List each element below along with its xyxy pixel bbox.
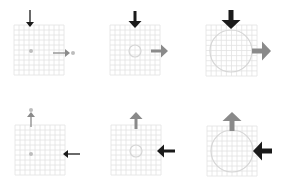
- diagram-canvas: [0, 0, 283, 190]
- panel-bottom-left: [15, 108, 80, 175]
- endpoint-dot: [71, 51, 75, 55]
- point-dot: [29, 49, 33, 53]
- panel-bottom-middle: [111, 112, 175, 175]
- arrow-left-icon: [157, 145, 175, 158]
- panel-top-right: [206, 10, 271, 76]
- arrow-right-icon: [252, 42, 271, 61]
- grid: [15, 125, 65, 175]
- endpoint-dot: [29, 108, 33, 112]
- panel-top-left: [14, 10, 75, 75]
- grid: [111, 125, 161, 175]
- grid: [14, 25, 64, 75]
- arrow-up-icon: [223, 112, 242, 131]
- arrow-left-icon: [63, 150, 80, 158]
- panel-bottom-right: [207, 112, 272, 176]
- arrow-down-icon: [129, 11, 142, 28]
- arrow-right-icon: [151, 45, 168, 58]
- arrow-up-icon: [130, 112, 143, 129]
- panel-top-middle: [110, 11, 168, 75]
- grid: [206, 25, 257, 76]
- arrow-down-icon: [222, 10, 241, 29]
- point-dot: [29, 152, 33, 156]
- grid: [207, 126, 257, 176]
- arrow-down-icon: [26, 10, 34, 27]
- arrow-left-icon: [253, 142, 272, 161]
